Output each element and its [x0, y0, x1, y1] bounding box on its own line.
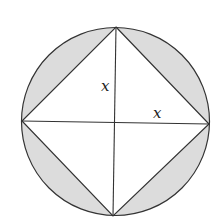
label-x-vertical: x [101, 77, 110, 95]
inscribed-square-diagram: x x [0, 0, 221, 221]
label-x-horizontal: x [153, 104, 162, 122]
